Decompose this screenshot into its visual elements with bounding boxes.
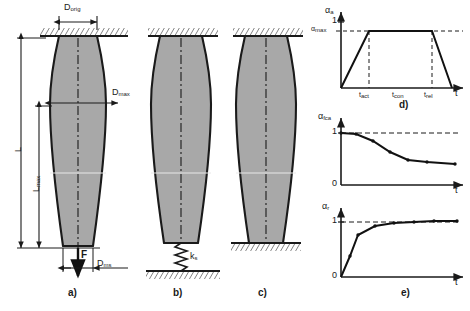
caption-e: e) bbox=[401, 288, 410, 298]
panel-b-ground-support bbox=[146, 271, 220, 279]
label-d-ms: Dms bbox=[97, 259, 112, 268]
chart-d-xtick-tact: tact bbox=[359, 91, 369, 99]
label-d-max: Dmax bbox=[112, 88, 130, 97]
panel-c bbox=[231, 28, 303, 251]
label-spring-ks: ks bbox=[190, 252, 198, 261]
figure-root: Dorig Dmax L Lmax F Dms a) ks b) c) αa 1… bbox=[0, 0, 470, 311]
dim-d-ms bbox=[63, 248, 128, 272]
panel-b-ceiling-support bbox=[148, 28, 218, 36]
chart-d bbox=[336, 12, 463, 88]
chart-ebot-markers bbox=[348, 219, 458, 257]
chart-etop-xlabel: t bbox=[455, 186, 458, 195]
chart-ebot-ylabel: αr bbox=[322, 202, 329, 211]
dim-d-orig bbox=[59, 16, 97, 30]
chart-d-xtick-trel: trel bbox=[424, 91, 433, 99]
caption-a: a) bbox=[68, 288, 77, 298]
chart-d-ytick-alphamax: αmax bbox=[311, 25, 326, 33]
panel-c-ground-support bbox=[231, 243, 301, 251]
chart-ebot-series bbox=[341, 221, 457, 277]
label-force-f: F bbox=[81, 250, 87, 260]
chart-ebot-ytick-1: 1 bbox=[332, 216, 337, 225]
panel-b bbox=[146, 28, 220, 279]
caption-d: d) bbox=[399, 100, 408, 110]
chart-ebot-xlabel: t bbox=[455, 278, 458, 287]
chart-etop-markers bbox=[339, 131, 456, 165]
chart-etop-series bbox=[341, 133, 455, 164]
spring-element bbox=[175, 243, 187, 271]
caption-b: b) bbox=[173, 288, 182, 298]
technical-figure-canvas bbox=[0, 0, 470, 311]
label-l: L bbox=[14, 147, 23, 152]
chart-etop-ytick-0: 0 bbox=[332, 179, 337, 188]
chart-d-ylabel: αa bbox=[325, 6, 334, 15]
panel-a bbox=[17, 16, 128, 276]
chart-d-xlabel: t bbox=[455, 89, 458, 98]
label-l-max: Lmax bbox=[32, 176, 41, 192]
chart-e-top bbox=[338, 118, 463, 185]
caption-c: c) bbox=[258, 288, 267, 298]
chart-ebot-ytick-0: 0 bbox=[332, 271, 337, 280]
panel-a-ceiling-support bbox=[40, 28, 128, 36]
chart-d-series bbox=[341, 31, 452, 88]
chart-e-bottom bbox=[338, 208, 463, 277]
chart-d-ytick-1: 1 bbox=[332, 16, 337, 25]
panel-c-ceiling-support bbox=[233, 28, 303, 36]
chart-etop-ylabel: αfca bbox=[318, 112, 331, 121]
chart-etop-ytick-1: 1 bbox=[332, 127, 337, 136]
label-d-orig: Dorig bbox=[64, 3, 81, 12]
